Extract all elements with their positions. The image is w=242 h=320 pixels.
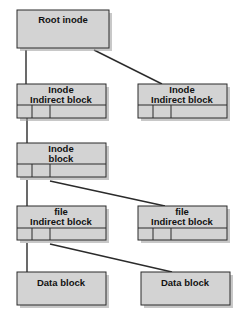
- inode-indirect-left-label-line2: Indirect block: [30, 94, 92, 105]
- inode-diagram-svg: Root inode Inode Indirect block Inode In…: [0, 0, 242, 320]
- node-inode-block[interactable]: Inode block: [17, 143, 109, 180]
- inode-block-label-line2: block: [49, 153, 75, 164]
- data-block-left-label-line1: Data block: [37, 277, 86, 288]
- file-indirect-left-label-line2: Indirect block: [30, 216, 92, 227]
- node-inode-indirect-block-right[interactable]: Inode Indirect block: [138, 84, 230, 121]
- inode-indirect-right-label-line2: Indirect block: [151, 94, 213, 105]
- node-file-indirect-block-left[interactable]: file Indirect block: [17, 206, 109, 243]
- file-indirect-right-label-line2: Indirect block: [151, 216, 213, 227]
- node-data-block-right[interactable]: Data block: [141, 272, 233, 308]
- node-inode-indirect-block-left[interactable]: Inode Indirect block: [17, 84, 109, 121]
- inode-diagram-canvas: Root inode Inode Indirect block Inode In…: [0, 0, 242, 320]
- edge-root-to-inode-indirect-right: [94, 50, 162, 84]
- edge-file-indirect-left-to-data-block-right: [50, 244, 172, 272]
- node-root-inode[interactable]: Root inode: [17, 10, 112, 51]
- edge-inode-block-to-file-indirect-right: [50, 181, 165, 206]
- data-block-right-label-line1: Data block: [161, 277, 210, 288]
- root-inode-label-line1: Root inode: [38, 14, 88, 25]
- node-data-block-left[interactable]: Data block: [17, 272, 109, 308]
- node-file-indirect-block-right[interactable]: file Indirect block: [138, 206, 230, 243]
